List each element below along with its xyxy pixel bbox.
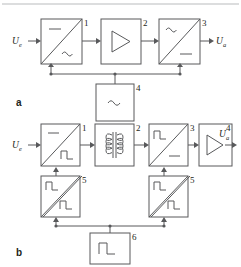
panel-a-input-arrow	[28, 38, 41, 44]
panel-a-block-2-amplifier[interactable]: 2	[101, 18, 148, 64]
panel-a-wire-1-2	[82, 38, 101, 44]
panel-a-label: a	[16, 97, 22, 108]
input-port-subscript: e	[19, 145, 22, 152]
panel-b-block-2-transformer[interactable]: 2	[95, 123, 141, 166]
panel-b: Ue 1	[12, 123, 237, 264]
panel-b-wire-3-4	[188, 142, 199, 148]
panel-b-block-3-number: 3	[190, 123, 195, 133]
panel-b-label: b	[16, 247, 22, 258]
panel-a-block-2-number: 2	[143, 18, 148, 28]
panel-b-block-5-left-number: 5	[82, 175, 87, 185]
panel-b-block-5-driver-left[interactable]: 5	[41, 175, 87, 217]
panel-b-block-5-driver-right[interactable]: 5	[149, 175, 195, 217]
panel-b-block-1-number: 1	[82, 123, 87, 133]
panel-b-input-arrow	[28, 142, 41, 148]
panel-b-block-6-clock-generator[interactable]: 6	[90, 232, 137, 264]
panel-b-block-2-number: 2	[136, 123, 141, 133]
panel-a-block-4-oscillator[interactable]: 4	[96, 83, 141, 121]
panel-b-wire-1-2	[80, 142, 95, 148]
panel-a-block-4-number: 4	[136, 83, 141, 93]
panel-b-block-6-number: 6	[132, 232, 137, 242]
panel-b-wire-5left-1	[53, 167, 59, 176]
panel-b-block-4-number: 4	[226, 123, 231, 133]
panel-a-wire-2-3	[141, 38, 159, 44]
panel-b-clock-bus	[53, 217, 167, 233]
panel-b-block-5-right-number: 5	[190, 175, 195, 185]
panel-b-wire-2-3	[134, 142, 149, 148]
panel-a-output-arrow	[200, 38, 214, 44]
panel-a-output-port-label: Ua	[216, 36, 226, 48]
output-port-subscript: a	[223, 41, 226, 48]
panel-a: Ue 1 2	[12, 18, 226, 121]
figure-canvas: Ue 1 2	[0, 0, 241, 267]
panel-a-block-3-number: 3	[202, 18, 207, 28]
panel-b-input-port-label: Ue	[12, 140, 22, 152]
panel-a-input-port-label: Ue	[12, 36, 22, 48]
panel-b-wire-5right-3	[161, 167, 167, 176]
panel-a-control-bus	[48, 63, 183, 84]
input-port-subscript: e	[19, 41, 22, 48]
output-port-subscript: a	[226, 134, 229, 141]
panel-a-block-1-number: 1	[84, 18, 89, 28]
panel-a-block-1-inverter[interactable]: 1	[41, 18, 89, 64]
panel-a-block-3-rectifier[interactable]: 3	[159, 18, 207, 64]
panel-b-block-1-inverter[interactable]: 1	[41, 123, 87, 166]
block-diagram-figure: Ue 1 2	[0, 0, 241, 267]
